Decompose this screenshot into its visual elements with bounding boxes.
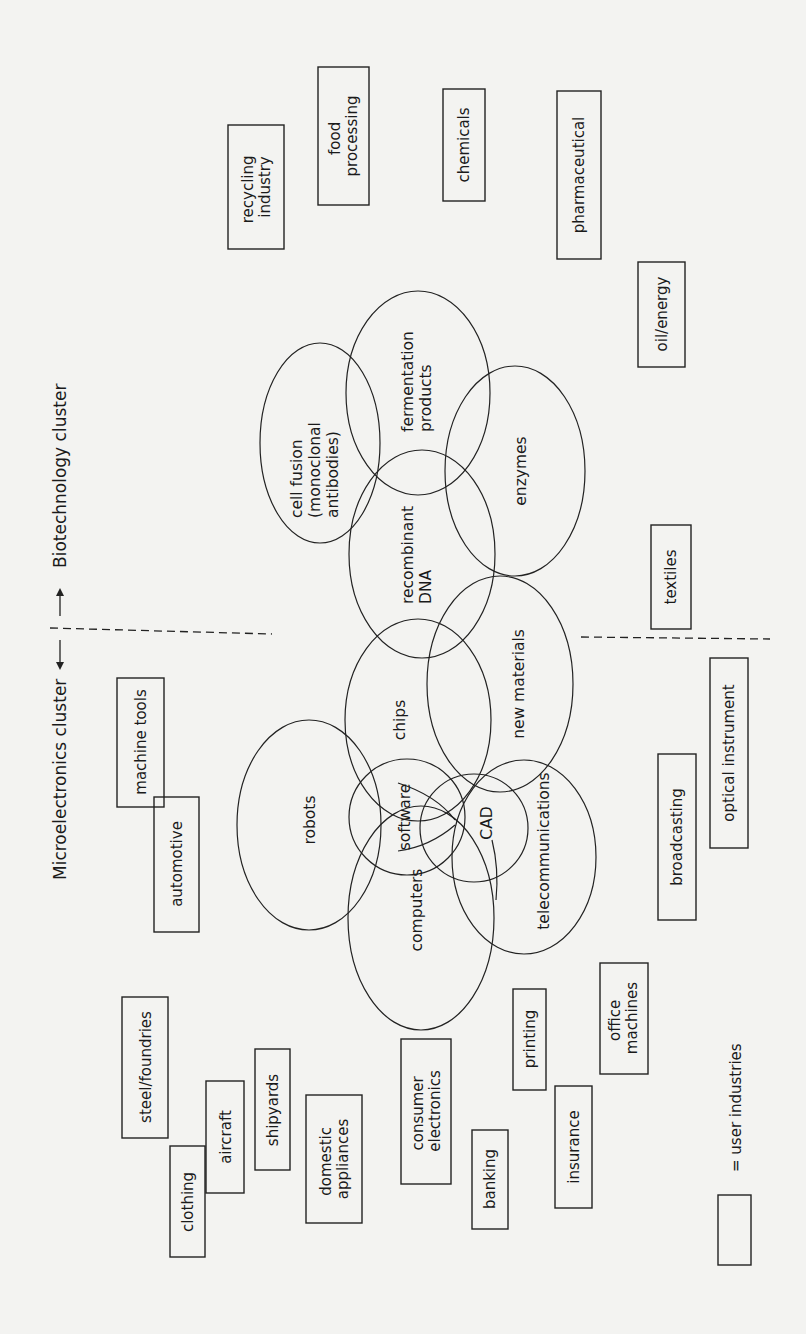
svg-text:optical instrument: optical instrument (720, 684, 738, 822)
svg-text:clothing: clothing (179, 1172, 197, 1232)
svg-text:textiles: textiles (662, 549, 680, 604)
svg-text:machine tools: machine tools (132, 689, 150, 795)
svg-text:oil/energy: oil/energy (653, 276, 671, 351)
label-computers: computers (408, 869, 426, 952)
svg-text:consumer electronics: consumer electronics (409, 1070, 444, 1152)
label-software: software (396, 784, 414, 851)
technology-cluster-diagram: Microelectronics cluster Biotechnology c… (0, 0, 806, 1334)
svg-text:pharmaceutical: pharmaceutical (570, 117, 588, 234)
svg-text:steel/foundries: steel/foundries (137, 1011, 155, 1123)
label-enzymes: enzymes (512, 436, 530, 505)
legend-label: = user industries (727, 1043, 745, 1172)
label-cad: CAD (478, 806, 496, 839)
page-bleed-through (0, 0, 806, 1334)
svg-text:aircraft: aircraft (217, 1110, 235, 1164)
svg-text:broadcasting: broadcasting (668, 788, 686, 886)
label-robots: robots (301, 796, 319, 845)
biotechnology-cluster-label: Biotechnology cluster (50, 384, 70, 568)
label-telecommunications: telecommunications (535, 772, 553, 929)
svg-text:automotive: automotive (168, 821, 186, 907)
svg-text:recycling industry: recycling industry (239, 151, 274, 224)
svg-text:domestic appliances: domestic appliances (317, 1119, 352, 1200)
svg-text:insurance: insurance (565, 1110, 583, 1183)
svg-text:printing: printing (521, 1010, 539, 1068)
svg-text:banking: banking (481, 1149, 499, 1209)
label-chips: chips (391, 700, 409, 741)
microelectronics-cluster-label: Microelectronics cluster (50, 679, 70, 880)
svg-text:shipyards: shipyards (264, 1074, 282, 1147)
label-new-materials: new materials (510, 629, 528, 739)
svg-text:chemicals: chemicals (455, 107, 473, 182)
